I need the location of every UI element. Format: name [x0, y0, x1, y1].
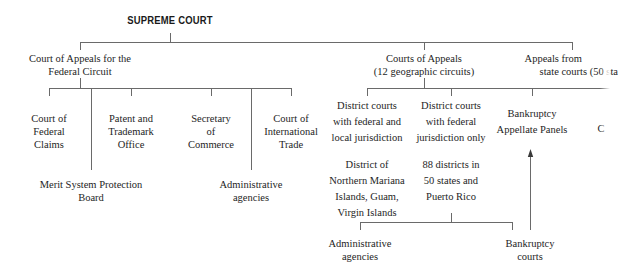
patent-trademark-office-node: Patent and Trademark Office	[108, 112, 154, 151]
bankruptcy-appellate-panels-node: Bankruptcy Appellate Panels	[497, 106, 568, 138]
territorial-district-courts-node: District of Northern Mariana Islands, Gu…	[329, 157, 405, 221]
court-of-international-trade-node: Court of International Trade	[264, 112, 318, 151]
court-of-federal-claims-node: Court of Federal Claims	[31, 112, 66, 151]
administrative-agencies-bottom-node: Administrative agencies	[329, 237, 392, 263]
court-of-appeals-federal-circuit-node: Court of Appeals for the Federal Circuit	[29, 52, 131, 78]
district-courts-federal-local-node: District courts with federal and local j…	[332, 98, 403, 146]
merit-system-protection-board-node: Merit System Protection Board	[40, 178, 143, 204]
administrative-agencies-left-node: Administrative agencies	[220, 178, 283, 204]
secretary-of-commerce-node: Secretary of Commerce	[188, 112, 234, 151]
district-courts-federal-only-node: District courts with federal jurisdictio…	[416, 98, 485, 146]
arrowhead-icon	[528, 149, 533, 157]
bankruptcy-courts-node: Bankruptcy courts	[506, 237, 555, 263]
supreme-court-node: SUPREME COURT	[127, 14, 212, 26]
right-edge-fade	[600, 0, 610, 270]
eighty-eight-districts-node: 88 districts in 50 states and Puerto Ric…	[422, 157, 479, 205]
courts-of-appeals-node: Courts of Appeals (12 geographic circuit…	[374, 52, 474, 78]
